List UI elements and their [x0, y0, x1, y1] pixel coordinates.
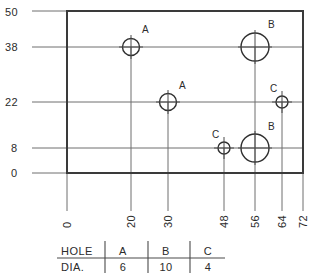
- hole-a-20-38: A: [119, 24, 149, 59]
- table-cell-dia-c: 4: [205, 261, 212, 273]
- dim-label-x-48: 48: [218, 215, 230, 228]
- hole-c-48-8: C: [212, 129, 234, 159]
- vertical-dimension-labels: 50 38 22 8 0: [5, 6, 18, 179]
- hole-c-64-22: C: [270, 83, 292, 113]
- hole-a-30-22: A: [156, 80, 186, 114]
- dim-label-8: 8: [11, 142, 18, 154]
- table-cell-hole-b: B: [162, 245, 170, 257]
- dim-label-x-0: 0: [61, 221, 73, 228]
- hole-label-a: A: [142, 24, 149, 35]
- hole-label-a: A: [179, 80, 186, 91]
- hole-label-b: B: [268, 121, 275, 132]
- dim-label-x-20: 20: [125, 215, 137, 228]
- table-cell-dia-b: 10: [159, 261, 172, 273]
- hole-label-c: C: [270, 83, 277, 94]
- dim-label-22: 22: [5, 96, 18, 108]
- dim-label-50: 50: [5, 6, 18, 18]
- table-row-header-hole: HOLE: [61, 245, 93, 257]
- hole-b-56-38: B: [238, 19, 275, 64]
- cad-canvas: A B A C C: [0, 0, 318, 273]
- hole-label-c: C: [212, 129, 219, 140]
- dim-label-x-30: 30: [162, 215, 174, 228]
- table-row-header-dia: DIA.: [61, 261, 84, 273]
- hole-b-56-8: B: [238, 121, 275, 165]
- dim-label-38: 38: [5, 41, 18, 53]
- hole-label-b: B: [268, 19, 275, 30]
- dim-label-0: 0: [11, 167, 18, 179]
- plate-outline: [67, 11, 303, 173]
- table-cell-hole-a: A: [119, 245, 127, 257]
- dim-label-x-56: 56: [249, 215, 261, 228]
- dim-label-x-72: 72: [297, 215, 309, 228]
- hole-table: HOLE DIA. A B C 6 10 4: [57, 241, 225, 273]
- table-cell-dia-a: 6: [120, 261, 127, 273]
- horizontal-dimension-labels: 0 20 30 48 56 64 72: [61, 215, 309, 228]
- table-cell-hole-c: C: [204, 245, 212, 257]
- engineering-drawing: A B A C C: [0, 0, 318, 273]
- dim-label-x-64: 64: [276, 215, 288, 228]
